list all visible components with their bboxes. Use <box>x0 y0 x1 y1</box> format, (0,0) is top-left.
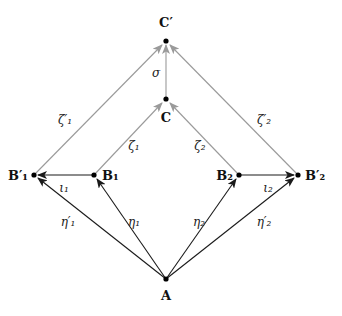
edge-label-iota1: ι₁ <box>59 181 69 195</box>
edge-label-iota2: ι₂ <box>263 181 273 195</box>
node-label-b2-prime: B′₂ <box>305 168 325 183</box>
edge-label-zeta2: ζ₂ <box>194 139 206 153</box>
node-label-c: C <box>161 110 171 125</box>
edge-eta1-prime <box>38 178 166 279</box>
edge-label-eta2: η₂ <box>193 215 205 229</box>
node-dot-c-prime <box>163 38 168 43</box>
node-label-c-prime: C′ <box>159 15 173 30</box>
edge-label-zeta1-prime: ζ′₁ <box>58 113 72 127</box>
edge-eta2-prime <box>166 178 294 279</box>
node-dot-b1 <box>91 172 96 177</box>
edge-eta2 <box>166 179 236 279</box>
edge-zeta2-prime <box>170 45 298 175</box>
edge-label-sigma: σ <box>152 66 161 80</box>
node-label-a: A <box>160 288 172 303</box>
node-dot-b2-prime <box>295 172 300 177</box>
edge-label-zeta1: ζ₁ <box>128 139 139 153</box>
edge-eta1 <box>97 179 166 279</box>
node-label-b1: B₁ <box>102 168 119 183</box>
edge-zeta1-prime <box>34 45 162 175</box>
edge-label-eta1-prime: η′₁ <box>61 215 76 229</box>
node-dot-c <box>163 96 168 101</box>
node-dot-a <box>163 276 168 281</box>
edge-label-eta1: η₁ <box>128 215 140 229</box>
edge-label-eta2-prime: η′₂ <box>257 215 272 229</box>
commutative-diagram: C′ C B′₁ B₁ B₂ B′₂ A σ ζ′₁ ζ′₂ ζ₁ ζ₂ ι₁ … <box>0 0 342 316</box>
node-dot-b2 <box>236 172 241 177</box>
edge-label-zeta2-prime: ζ′₂ <box>257 113 271 127</box>
node-label-b2: B₂ <box>216 168 233 183</box>
node-label-b1-prime: B′₁ <box>8 168 28 183</box>
node-dot-b1-prime <box>31 172 36 177</box>
